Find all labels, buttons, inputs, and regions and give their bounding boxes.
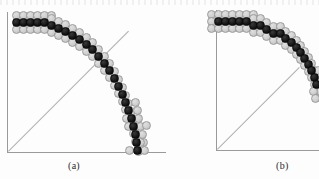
panel-b-caption: (b) — [276, 160, 289, 171]
panel-a-caption: (a) — [68, 160, 80, 171]
panel-a — [0, 0, 170, 179]
panel-b-diagonal-line — [217, 67, 300, 150]
panel-a-y-axis — [7, 12, 8, 152]
panel-b — [160, 0, 319, 179]
panel-a-diagonal-line — [8, 31, 129, 152]
panel-b-x-axis — [216, 150, 319, 151]
figure-root: (a) (b) — [0, 0, 319, 179]
chosen-pixel — [312, 80, 319, 89]
candidate-pixel — [131, 98, 140, 107]
candidate-pixel — [311, 94, 319, 103]
candidate-pixel — [142, 121, 151, 130]
candidate-pixel — [133, 106, 142, 115]
chosen-pixel — [133, 146, 142, 155]
